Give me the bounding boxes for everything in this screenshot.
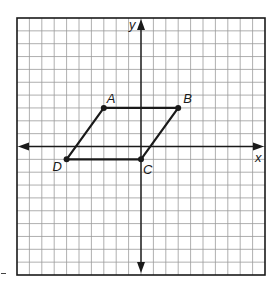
labels: xyABCD: [53, 17, 262, 177]
point-label-b: B: [183, 91, 192, 106]
point-b: [175, 105, 181, 111]
coordinate-plane: xyABCD: [0, 0, 277, 292]
point-label-d: D: [53, 159, 62, 174]
x-axis-arrow-left-icon: [18, 143, 29, 151]
y-axis-arrow-up-icon: [137, 19, 145, 30]
x-axis-label: x: [254, 150, 262, 165]
y-axis-label: y: [128, 17, 137, 32]
y-axis-arrow-down-icon: [137, 262, 145, 273]
point-label-c: C: [143, 162, 153, 177]
axes: [18, 19, 264, 273]
point-d: [64, 156, 70, 162]
point-label-a: A: [106, 91, 116, 106]
